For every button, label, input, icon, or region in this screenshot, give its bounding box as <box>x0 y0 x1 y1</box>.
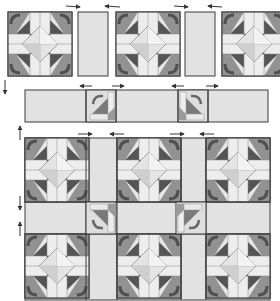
quilt-block-r2c3 <box>206 234 270 298</box>
sashing-row <box>25 86 268 134</box>
pressing-arrow-left <box>105 6 120 7</box>
cornerstone-4 <box>176 202 206 234</box>
quilt-block-r1c3 <box>206 138 270 202</box>
quilt-block-2 <box>116 12 180 76</box>
cornerstone-1 <box>86 90 116 122</box>
quilt-assembly-diagram <box>0 0 280 301</box>
quilt-block-3 <box>222 12 280 76</box>
pressing-arrow-left <box>208 6 222 7</box>
sashing-strip <box>185 12 215 76</box>
quilt-block-r2c2 <box>117 234 181 298</box>
quilt-block-r1c1 <box>25 138 89 202</box>
assembled-quilt <box>25 138 270 300</box>
pressing-arrow-right <box>174 6 188 7</box>
quilt-block-r1c2 <box>117 138 181 202</box>
pressing-arrow-right <box>66 6 80 7</box>
quilt-block-r2c1 <box>25 234 89 298</box>
cornerstone-3 <box>86 202 116 234</box>
top-row <box>8 6 280 76</box>
cornerstone-2 <box>178 90 208 122</box>
quilt-block-1 <box>8 12 72 76</box>
sashing-strip <box>78 12 108 76</box>
